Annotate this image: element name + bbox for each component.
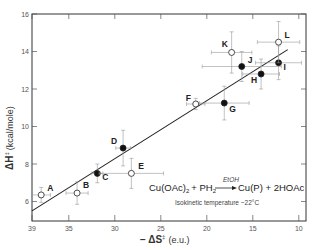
- point-label: A: [47, 183, 53, 193]
- filled-marker: [258, 71, 264, 77]
- point-label: D: [111, 136, 117, 146]
- point-label: L: [285, 30, 290, 40]
- y-tick-label: 12: [21, 86, 29, 93]
- svg-text:Cu(OAc)2+ PH2: Cu(OAc)2+ PH2: [149, 182, 217, 194]
- filled-marker: [239, 64, 245, 70]
- open-marker: [193, 101, 199, 107]
- data-point-d: D: [111, 130, 130, 166]
- data-point-b: B: [66, 180, 89, 204]
- filled-marker: [221, 100, 227, 106]
- x-tick-label: 20: [203, 225, 211, 232]
- x-tick-label: 15: [249, 225, 257, 232]
- data-point-k: K: [211, 32, 251, 73]
- y-tick-label: 6: [25, 198, 29, 205]
- point-label: I: [284, 62, 286, 72]
- arrowhead-icon: [232, 186, 237, 190]
- svg-text:EtOH: EtOH: [223, 176, 239, 183]
- point-label: H: [251, 75, 257, 85]
- data-point-j: J: [202, 52, 281, 82]
- x-tick-label: 25: [157, 225, 165, 232]
- point-label: K: [222, 39, 229, 49]
- y-tick-label: 14: [21, 48, 29, 55]
- svg-text:Cu(P) + 2HOAc: Cu(P) + 2HOAc: [238, 182, 305, 193]
- point-label: E: [138, 161, 144, 171]
- axis-ticks: 393530252015106810121416: [21, 11, 306, 233]
- filled-marker: [120, 145, 126, 151]
- scatter-chart: 393530252015106810121416 ABCDEFGHIJKL ΔH…: [0, 0, 318, 250]
- x-axis-title: − ΔS‡(e.u.): [140, 234, 189, 245]
- x-tick-label: 39: [28, 225, 36, 232]
- point-label: J: [248, 55, 253, 65]
- reaction-equation: Cu(OAc)2+ PH2 EtOH Cu(P) + 2HOAc: [149, 176, 305, 194]
- open-marker: [229, 49, 235, 55]
- isokinetic-note: Isokinetic temperature ~22°C: [175, 199, 259, 207]
- y-tick-label: 16: [21, 11, 29, 18]
- open-marker: [128, 170, 134, 176]
- data-point-g: G: [199, 86, 249, 120]
- point-label: F: [186, 93, 191, 103]
- y-tick-label: 10: [21, 123, 29, 130]
- data-point-f: F: [186, 93, 205, 110]
- point-label: C: [102, 172, 108, 182]
- data-point-l: L: [257, 22, 299, 63]
- point-label: B: [83, 180, 89, 190]
- x-tick-label: 10: [295, 225, 303, 232]
- data-points: ABCDEFGHIJKL: [32, 22, 302, 205]
- x-tick-label: 30: [111, 225, 119, 232]
- point-label: G: [229, 104, 236, 114]
- open-marker: [74, 190, 80, 196]
- y-tick-label: 8: [25, 161, 29, 168]
- open-marker: [276, 39, 282, 45]
- x-tick-label: 35: [65, 225, 73, 232]
- y-axis-title: ΔH‡(kcal/mole): [4, 106, 15, 170]
- open-marker: [38, 192, 44, 198]
